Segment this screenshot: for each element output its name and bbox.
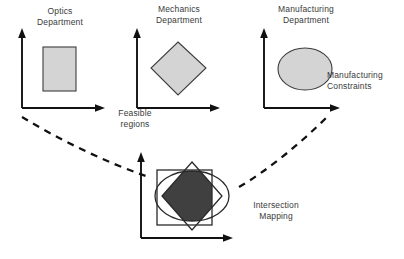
mechanics-x-axis-arrowhead — [210, 104, 220, 112]
optics-label-line2: Department — [37, 17, 83, 27]
optics-label-line1: Optics — [48, 6, 73, 16]
manufacturing-constraints-line1: Manufacturing — [327, 70, 383, 80]
manufacturing-constraints-label: ManufacturingConstraints — [327, 70, 404, 92]
feasible-regions-line2: regions — [121, 119, 150, 129]
right-dashed-flow-arrow — [239, 115, 329, 187]
optics-department-label: OpticsDepartment — [22, 6, 98, 28]
feasible-regions-line1: Feasible — [118, 108, 151, 118]
diagram-canvas: OpticsDepartment MechanicsDepartment Man… — [0, 0, 404, 259]
mechanics-department-label: MechanicsDepartment — [139, 4, 219, 26]
manufacturing-constraints-line2: Constraints — [327, 81, 372, 91]
manufacturing-label-line1: Manufacturing — [278, 4, 334, 14]
intersection-mapping-label: IntersectionMapping — [240, 200, 312, 222]
optics-feasible-region-shape — [43, 47, 76, 91]
optics-panel — [18, 28, 105, 112]
mechanics-label-line2: Department — [156, 15, 202, 25]
intersection-y-axis-arrowhead — [137, 152, 145, 162]
manufacturing-x-axis-arrowhead — [330, 104, 340, 112]
mechanics-panel — [133, 28, 220, 112]
optics-y-axis-arrowhead — [18, 28, 26, 38]
mechanics-label-line1: Mechanics — [158, 4, 200, 14]
manufacturing-label-line2: Department — [283, 15, 329, 25]
mechanics-y-axis-arrowhead — [133, 28, 141, 38]
manufacturing-department-label: ManufacturingDepartment — [262, 4, 350, 26]
intersection-mapping-line2: Mapping — [259, 211, 293, 221]
intersection-x-axis-arrowhead — [223, 234, 233, 242]
intersection-panel — [137, 150, 250, 250]
manufacturing-feasible-region-shape — [278, 48, 332, 90]
manufacturing-y-axis-arrowhead — [260, 28, 268, 38]
intersection-mapping-line1: Intersection — [253, 200, 299, 210]
feasible-regions-label: Feasibleregions — [104, 108, 166, 130]
mechanics-feasible-region-shape — [151, 42, 206, 95]
diagram-vector-layer — [0, 0, 404, 259]
